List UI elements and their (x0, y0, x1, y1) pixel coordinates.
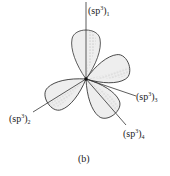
nucleus (84, 77, 88, 81)
label-sp3-4: (sp3)4 (123, 128, 145, 140)
figure-caption: (b) (78, 153, 90, 164)
label-sp3-3: (sp3)3 (136, 91, 158, 103)
label-sp3-1: (sp3)1 (88, 5, 110, 17)
sp3-orbital-diagram (0, 0, 170, 176)
label-sp3-2: (sp3)2 (9, 113, 31, 125)
